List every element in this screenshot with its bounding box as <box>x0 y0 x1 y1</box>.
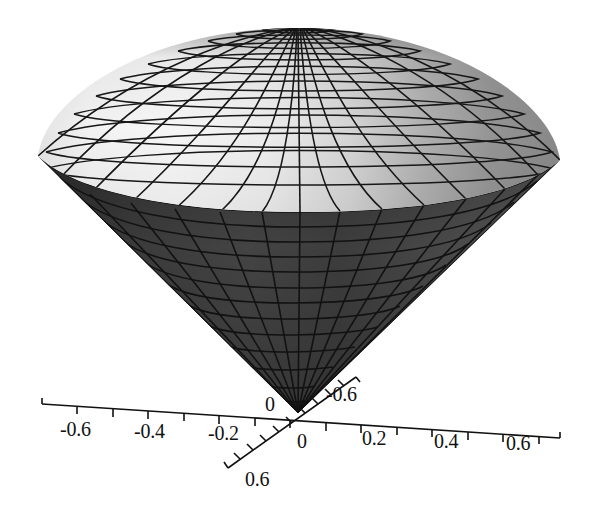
x-tick-label: 0.6 <box>506 432 530 455</box>
surface-plot-figure: -0.6 -0.4 -0.2 0 0.2 0.4 0.6 -0.6 0 0.6 <box>0 0 600 511</box>
x-tick-label: -0.2 <box>208 422 239 445</box>
dome-cap-surface <box>38 28 560 212</box>
y-axis-start-cap <box>224 462 228 468</box>
x-tick-label: -0.4 <box>134 420 165 443</box>
x-tick-label: 0.2 <box>362 427 386 450</box>
x-tick-label: -0.6 <box>60 418 91 441</box>
y-tick-label: 0.6 <box>245 468 269 491</box>
y-tick-label-zero: 0 <box>297 430 307 453</box>
y-tick-label: -0.6 <box>326 383 357 406</box>
x-tick-label: 0.4 <box>434 430 458 453</box>
x-tick-label-zero: 0 <box>265 393 275 416</box>
y-axis-end-cap <box>356 377 360 382</box>
